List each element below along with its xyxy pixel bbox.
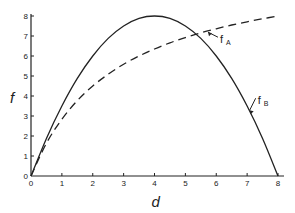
x-tick-label: 2	[91, 179, 96, 188]
x-tick-label: 0	[29, 179, 34, 188]
annotation-label-fB: f	[258, 94, 262, 106]
x-tick-label: 8	[276, 179, 281, 188]
y-tick-label: 0	[24, 172, 29, 181]
annotations-layer: fAfB	[208, 32, 269, 114]
annotation-label-fA: f	[220, 33, 224, 45]
y-tick-label: 3	[24, 112, 29, 121]
series-layer	[31, 16, 278, 176]
y-tick-label: 8	[24, 12, 29, 21]
y-tick-label: 2	[24, 132, 29, 141]
y-tick-label: 6	[24, 52, 29, 61]
axes: 012345678012345678	[24, 12, 284, 188]
x-axis-title: d	[152, 193, 161, 210]
annotation-sub-fA: A	[226, 39, 231, 46]
y-tick-label: 7	[24, 32, 29, 41]
x-tick-label: 4	[152, 179, 157, 188]
y-axis-title: f	[10, 89, 16, 106]
series-line-fA	[31, 16, 278, 176]
x-tick-label: 6	[214, 179, 219, 188]
labels-layer: d f	[10, 89, 161, 210]
annotation-sub-fB: B	[264, 100, 269, 107]
y-tick-label: 4	[24, 92, 29, 101]
x-tick-label: 1	[60, 179, 65, 188]
x-tick-label: 3	[121, 179, 126, 188]
y-tick-label: 1	[24, 152, 29, 161]
x-tick-label: 7	[245, 179, 250, 188]
chart: 012345678012345678 d f fAfB	[0, 0, 295, 213]
annotation-arrow-fB	[250, 98, 256, 110]
series-line-fB	[31, 16, 278, 176]
y-tick-label: 5	[24, 72, 29, 81]
x-tick-label: 5	[183, 179, 188, 188]
